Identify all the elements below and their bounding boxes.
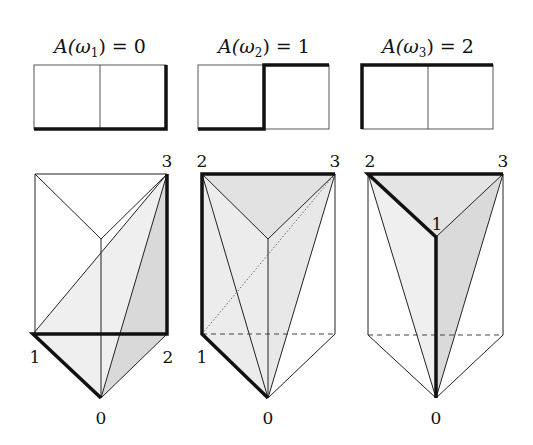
vertex-label-0: 0 bbox=[96, 408, 107, 428]
panel-2-prism: 2 3 1 0 bbox=[197, 151, 341, 428]
vertex-label-1: 1 bbox=[432, 214, 443, 234]
panel-3-title: A(ω3) = 2 bbox=[380, 35, 474, 60]
panel-2-grid bbox=[198, 65, 329, 129]
vertex-label-2: 2 bbox=[197, 151, 208, 171]
diagram-canvas: A(ω1) = 0 A(ω2) = 1 A(ω3) = 2 3 1 2 0 bbox=[0, 0, 533, 445]
vertex-label-3: 3 bbox=[330, 151, 341, 171]
vertex-label-0: 0 bbox=[431, 408, 442, 428]
vertex-label-1: 1 bbox=[197, 347, 208, 367]
vertex-label-2: 2 bbox=[163, 347, 174, 367]
vertex-label-3: 3 bbox=[162, 151, 173, 171]
panel-1-title: A(ω1) = 0 bbox=[52, 35, 146, 60]
panel-1-grid bbox=[34, 65, 166, 129]
vertex-label-2: 2 bbox=[365, 151, 376, 171]
panel-2-title: A(ω2) = 1 bbox=[216, 35, 310, 60]
vertex-label-3: 3 bbox=[498, 151, 509, 171]
vertex-label-0: 0 bbox=[263, 408, 274, 428]
panel-1-prism: 3 1 2 0 bbox=[30, 151, 174, 428]
panel-3-grid bbox=[362, 65, 493, 129]
panel-3-prism: 2 3 1 0 bbox=[365, 151, 509, 428]
vertex-label-1: 1 bbox=[30, 347, 41, 367]
